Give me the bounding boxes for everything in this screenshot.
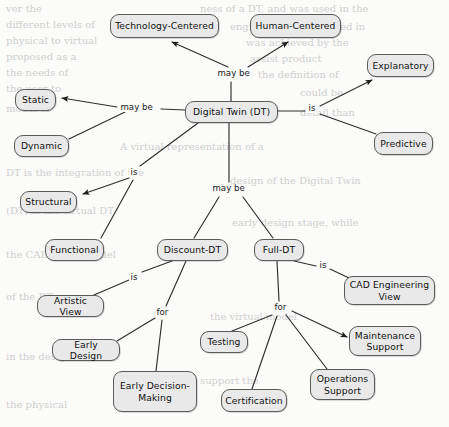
edge-label-for-full: for [273, 303, 288, 312]
edge-maybe-human-centered [248, 42, 288, 67]
edge-label-maybe-left: may be [119, 103, 154, 112]
node-structural[interactable]: Structural [20, 191, 77, 213]
edge-label-is-full: is [318, 261, 328, 270]
edge-for-early-decision-making [156, 320, 162, 371]
edge-is-artistic-view [94, 280, 129, 295]
node-digital-twin[interactable]: Digital Twin (DT) [185, 101, 278, 123]
edge-dt-is-lowerleft [140, 123, 198, 166]
concept-map-canvas: ver the ness of a DT, and was used in th… [0, 0, 449, 427]
node-certification[interactable]: Certification [221, 389, 287, 412]
node-static[interactable]: Static [15, 89, 56, 111]
node-operations-support[interactable]: Operations Support [310, 369, 375, 400]
node-testing[interactable]: Testing [200, 331, 248, 353]
edge-for-certification [252, 316, 277, 389]
node-full-dt[interactable]: Full-DT [254, 239, 304, 261]
edge-label-maybe-bottom: may be [211, 184, 246, 193]
node-artistic-view[interactable]: Artistic View [37, 295, 104, 317]
edge-label-is-right: is [307, 104, 317, 113]
edge-is-explanatory [320, 80, 372, 106]
edge-maybe-technology-centered [172, 42, 228, 67]
edge-for-early-design [117, 318, 155, 341]
edge-maybe-discount-dt [194, 197, 219, 238]
edge-is-cad-engineering-view [330, 269, 349, 278]
edge-is-structural [83, 178, 129, 194]
edge-full-for [277, 261, 279, 301]
edge-label-is-discount: is [129, 273, 139, 282]
node-maintenance-support[interactable]: Maintenance Support [349, 326, 421, 356]
edge-label-is-left: is [129, 168, 139, 177]
edge-label-maybe-top: may be [216, 69, 251, 78]
edge-for-operations-support [286, 315, 327, 369]
edge-is-predictive [320, 114, 376, 134]
node-technology-centered[interactable]: Technology-Centered [110, 14, 219, 38]
edge-discount-is [142, 261, 172, 272]
node-explanatory[interactable]: Explanatory [367, 54, 434, 77]
edge-full-is [294, 261, 316, 266]
edge-discount-for [166, 261, 186, 306]
edge-maybe-full-dt [243, 197, 273, 238]
edge-label-for-discount: for [155, 308, 170, 317]
node-discount-dt[interactable]: Discount-DT [157, 239, 228, 261]
edge-is-functional [101, 180, 133, 238]
node-cad-engineering-view[interactable]: CAD Engineering View [344, 276, 435, 305]
node-human-centered[interactable]: Human-Centered [250, 14, 341, 38]
node-early-design[interactable]: Early Design [52, 339, 120, 361]
node-predictive[interactable]: Predictive [374, 132, 433, 155]
edge-dt-maybe-left [161, 109, 185, 110]
node-functional[interactable]: Functional [45, 239, 104, 261]
edge-maybe-static [62, 98, 117, 107]
edge-for-testing [232, 315, 272, 331]
node-early-decision-making[interactable]: Early Decision-Making [113, 371, 197, 412]
edge-maybe-dynamic [69, 112, 125, 139]
node-dynamic[interactable]: Dynamic [14, 135, 69, 157]
